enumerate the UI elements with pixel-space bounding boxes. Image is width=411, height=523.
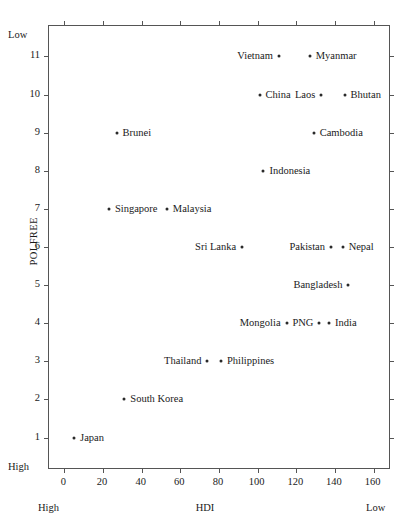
x-axis-tick: [258, 468, 259, 473]
y-axis-tick: [389, 323, 394, 324]
y-axis-tick: [44, 361, 49, 362]
y-axis-top-annotation: Low: [8, 30, 27, 41]
data-point-label: Malaysia: [173, 204, 212, 215]
data-point-marker: [347, 284, 350, 287]
y-axis-tick-label: 1: [14, 432, 40, 443]
x-axis-tick: [142, 21, 143, 26]
x-axis-tick: [296, 468, 297, 473]
x-axis-tick-label: 40: [121, 477, 161, 488]
x-axis-tick-label: 140: [314, 477, 354, 488]
y-axis-tick-label: 8: [14, 165, 40, 176]
data-point-marker: [258, 93, 261, 96]
data-point-marker: [341, 246, 344, 249]
data-point-label: Cambodia: [320, 127, 363, 138]
data-point-marker: [320, 93, 323, 96]
x-axis-tick: [64, 468, 65, 473]
y-axis-tick: [389, 171, 394, 172]
y-axis-tick-label: 2: [14, 393, 40, 404]
x-axis-tick: [219, 21, 220, 26]
y-axis-tick: [389, 95, 394, 96]
y-axis-tick-label: 3: [14, 355, 40, 366]
y-axis-tick-label: 7: [14, 203, 40, 214]
x-axis-tick-label: 100: [237, 477, 277, 488]
y-axis-tick: [44, 438, 49, 439]
data-point-label: Brunei: [123, 127, 152, 138]
data-point-label: Pakistan: [289, 242, 325, 253]
y-axis-tick-label: 6: [14, 241, 40, 252]
data-point-label: Nepal: [349, 242, 374, 253]
data-point-marker: [219, 360, 222, 363]
x-axis-tick: [335, 468, 336, 473]
x-axis-tick: [335, 21, 336, 26]
y-axis-bottom-annotation: High: [8, 462, 29, 473]
data-point-marker: [330, 246, 333, 249]
x-axis-tick: [103, 21, 104, 26]
x-axis-tick-label: 60: [159, 477, 199, 488]
x-axis-tick: [219, 468, 220, 473]
x-axis-tick-label: 80: [198, 477, 238, 488]
y-axis-tick: [389, 399, 394, 400]
y-axis-tick-label: 9: [14, 127, 40, 138]
x-axis-tick: [258, 21, 259, 26]
y-axis-tick: [44, 56, 49, 57]
data-point-marker: [165, 207, 168, 210]
data-point-label: Philippines: [227, 356, 274, 367]
data-point-marker: [107, 207, 110, 210]
data-point-marker: [277, 55, 280, 58]
y-axis-tick-label: 4: [14, 317, 40, 328]
x-axis-tick: [180, 21, 181, 26]
data-point-marker: [318, 322, 321, 325]
x-axis-title: HDI: [175, 503, 235, 514]
data-point-label: Vietnam: [237, 51, 273, 62]
y-axis-tick: [389, 133, 394, 134]
data-point-label: Indonesia: [269, 166, 310, 177]
data-point-marker: [73, 436, 76, 439]
x-axis-tick: [374, 468, 375, 473]
data-point-label: Myanmar: [316, 51, 357, 62]
data-point-marker: [308, 55, 311, 58]
data-point-marker: [328, 322, 331, 325]
data-point-label: Bangladesh: [293, 280, 342, 291]
y-axis-tick: [389, 361, 394, 362]
x-axis-tick-label: 20: [82, 477, 122, 488]
data-point-label: South Korea: [130, 394, 183, 405]
y-axis-tick: [44, 323, 49, 324]
plot-area: MyanmarVietnamChinaLaosBhutanBruneiCambo…: [48, 25, 390, 469]
data-point-marker: [312, 131, 315, 134]
data-point-label: India: [335, 318, 357, 329]
x-axis-right-annotation: Low: [366, 503, 385, 514]
y-axis-tick-label: 11: [14, 50, 40, 61]
data-point-marker: [262, 169, 265, 172]
y-axis-tick: [44, 171, 49, 172]
data-point-label: Mongolia: [240, 318, 281, 329]
y-axis-tick: [389, 56, 394, 57]
data-point-marker: [115, 131, 118, 134]
data-point-marker: [343, 93, 346, 96]
y-axis-tick: [44, 247, 49, 248]
x-axis-tick-label: 0: [43, 477, 83, 488]
x-axis-tick-label: 160: [353, 477, 393, 488]
data-point-label: Sri Lanka: [195, 242, 236, 253]
data-point-marker: [241, 246, 244, 249]
y-axis-tick: [389, 247, 394, 248]
y-axis-tick: [44, 95, 49, 96]
data-point-label: Singapore: [115, 204, 158, 215]
y-axis-tick-label: 10: [14, 89, 40, 100]
y-axis-tick: [44, 209, 49, 210]
x-axis-tick: [296, 21, 297, 26]
x-axis-tick-label: 120: [275, 477, 315, 488]
y-axis-tick: [44, 285, 49, 286]
x-axis-tick: [103, 468, 104, 473]
y-axis-tick: [44, 399, 49, 400]
y-axis-tick: [44, 133, 49, 134]
data-point-label: Laos: [295, 89, 315, 100]
x-axis-tick: [374, 21, 375, 26]
scatter-plot-figure: Low High High Low POLFREE HDI MyanmarVie…: [0, 0, 411, 523]
data-point-label: Japan: [80, 432, 104, 443]
y-axis-tick: [389, 285, 394, 286]
x-axis-left-annotation: High: [38, 503, 59, 514]
data-point-marker: [206, 360, 209, 363]
y-axis-tick: [389, 209, 394, 210]
x-axis-tick: [180, 468, 181, 473]
data-point-label: Thailand: [164, 356, 201, 367]
